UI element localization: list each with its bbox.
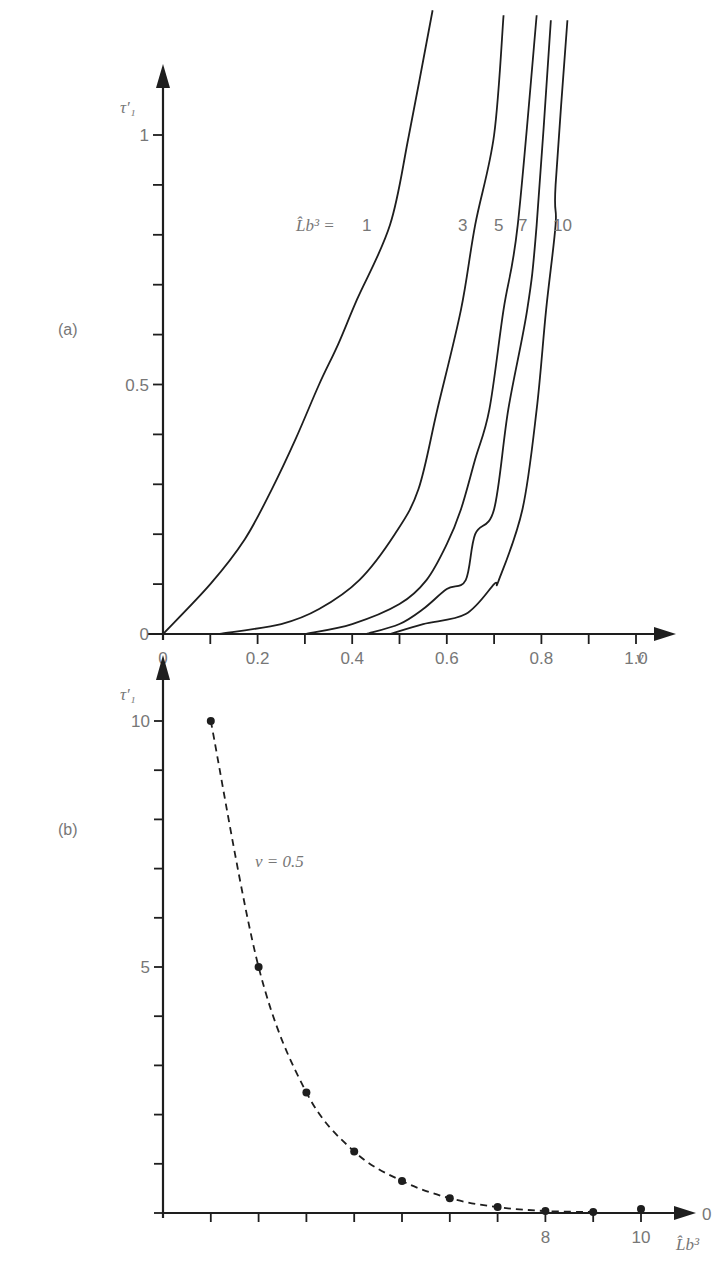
data-point: [350, 1148, 358, 1156]
curve-label-lb3-5: 5: [494, 216, 503, 235]
panel-a-x-tick-label: 0.2: [246, 649, 270, 668]
panel-a-x-tick-label: 0.4: [340, 649, 364, 668]
data-point: [446, 1194, 454, 1202]
curve-label-lb3-7: 7: [518, 216, 527, 235]
figure: (a) 00.20.40.60.81.000.51 135710 ν τ′₁ L…: [0, 0, 722, 1275]
panel-a-y-tick-label: 0: [140, 625, 149, 644]
panel-b-y-tick-label: 5: [141, 958, 150, 977]
panel-a-legend-prefix: L̂b³ =: [295, 216, 335, 235]
panel-a-x-label: ν: [636, 648, 644, 667]
panel-b-y-label: τ′₁: [120, 685, 136, 704]
panel-b-annotation: ν = 0.5: [255, 852, 304, 871]
panel-a: (a) 00.20.40.60.81.000.51 135710 ν τ′₁ L…: [58, 10, 676, 668]
curve-label-lb3-3: 3: [458, 216, 467, 235]
data-point: [398, 1177, 406, 1185]
curve-lb3-1: [163, 10, 433, 634]
data-point: [207, 717, 215, 725]
panel-b-x-tick-label: 8: [541, 1228, 550, 1247]
panel-a-y-tick-label: 1: [140, 126, 149, 145]
panel-a-x-tick-label: 0.8: [530, 649, 554, 668]
panel-b-x-arrow-icon: [674, 1206, 696, 1220]
curve-lb3-7: [366, 20, 550, 634]
panel-b-x-label: L̂b³: [675, 1235, 700, 1254]
data-point: [302, 1088, 310, 1096]
curve-lb3-3: [220, 15, 504, 634]
panel-b-y-tick-label: 10: [131, 712, 150, 731]
data-point: [541, 1207, 549, 1215]
panel-a-label: (a): [58, 321, 78, 338]
panel-a-y-arrow-icon: [156, 64, 170, 88]
panel-a-y-tick-label: 0.5: [125, 376, 149, 395]
data-point: [637, 1205, 645, 1213]
panel-b-x-tick-label: 10: [632, 1228, 651, 1247]
curve-lb3-5: [305, 15, 537, 634]
data-point: [589, 1208, 597, 1216]
dashed-curve-nu-0-5: [211, 721, 593, 1212]
panel-a-x-tick-label: 0.6: [435, 649, 459, 668]
data-point: [494, 1203, 502, 1211]
curve-label-lb3-1: 1: [362, 216, 371, 235]
panel-b-label: (b): [58, 821, 78, 838]
curve-label-lb3-10: 10: [553, 216, 572, 235]
panel-a-x-arrow-icon: [654, 627, 676, 641]
panel-a-y-label: τ′₁: [120, 98, 136, 117]
data-point: [255, 963, 263, 971]
panel-b-x-axis-end-label: 0: [702, 1205, 711, 1224]
panel-b: (b) 810510 0 L̂b³ τ′₁ ν = 0.5: [58, 655, 711, 1254]
curve-lb3-10: [390, 20, 567, 634]
